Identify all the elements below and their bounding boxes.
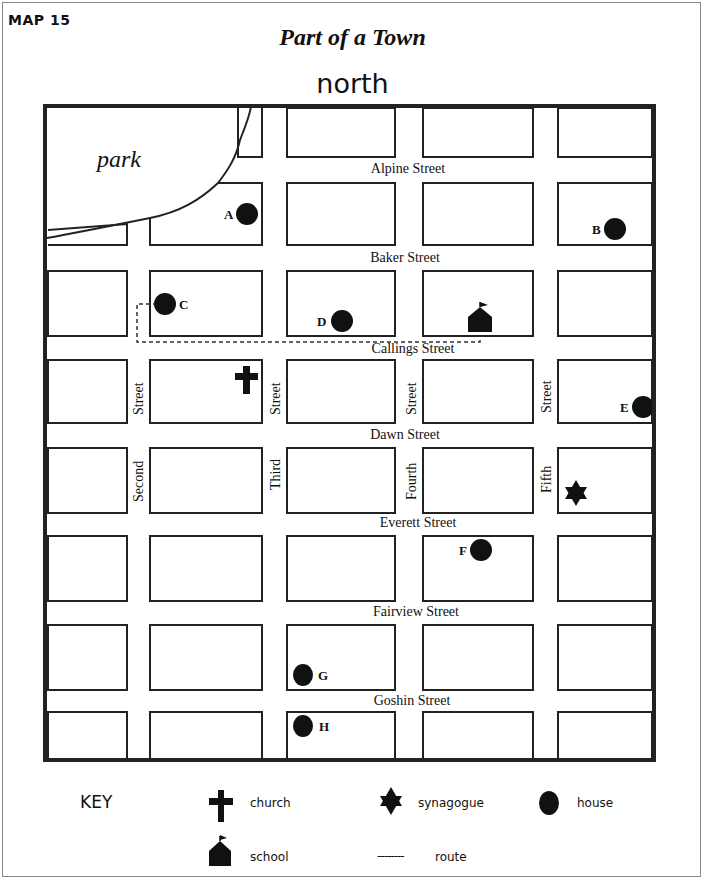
house-g-label: G xyxy=(318,668,328,684)
house-c-label: C xyxy=(179,297,188,313)
street-third-suffix: Street xyxy=(268,382,284,415)
street-baker: Baker Street xyxy=(370,250,440,266)
street-everett: Everett Street xyxy=(380,515,457,531)
street-dawn: Dawn Street xyxy=(370,427,440,443)
house-d-label: D xyxy=(317,314,326,330)
street-goshin: Goshin Street xyxy=(374,693,451,709)
street-fifth-name: Fifth xyxy=(539,466,555,493)
street-fourth-suffix: Street xyxy=(404,382,420,415)
key-school-icon xyxy=(209,835,231,866)
house-e-label: E xyxy=(620,400,629,416)
street-fairview: Fairview Street xyxy=(373,604,459,620)
map-frame xyxy=(43,104,656,762)
key-house-icon xyxy=(539,791,559,815)
key-route-label: route xyxy=(435,850,467,864)
key-synagogue-label: synagogue xyxy=(418,796,484,810)
key-route-line: -------- xyxy=(377,849,404,863)
key-church-label: church xyxy=(250,796,291,810)
house-f-label: F xyxy=(459,543,467,559)
key-church-icon xyxy=(209,790,233,822)
street-fifth-suffix: Street xyxy=(539,380,555,413)
house-a-label: A xyxy=(224,207,233,223)
key-house-label: house xyxy=(577,796,613,810)
street-callings: Callings Street xyxy=(372,341,455,357)
street-second-suffix: Street xyxy=(131,382,147,415)
street-fourth-name: Fourth xyxy=(404,463,420,500)
street-alpine: Alpine Street xyxy=(371,161,445,177)
key-school-label: school xyxy=(250,850,288,864)
key-synagogue-icon xyxy=(380,787,402,815)
house-h-label: H xyxy=(319,719,329,735)
street-third-name: Third xyxy=(268,459,284,490)
key-title: KEY xyxy=(80,792,112,812)
street-second-name: Second xyxy=(131,461,147,502)
house-b-label: B xyxy=(592,222,601,238)
park-label: park xyxy=(97,146,141,173)
